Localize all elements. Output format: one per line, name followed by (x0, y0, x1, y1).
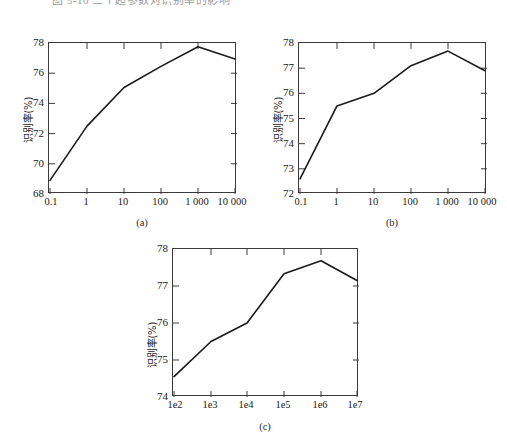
panel-a-xtick-2: 10 (118, 196, 129, 207)
cropped-caption-text: 图 5-10 三个超参数对识别率的影响 (52, 0, 230, 7)
panel-b-xtick-0: 0.1 (294, 196, 307, 207)
panel-a-xtick-0: 0.1 (44, 196, 57, 207)
panel-a-ytick-68: 68 (28, 188, 44, 199)
panel-a-ytick-70: 70 (28, 157, 44, 168)
panel-a-ytick-76: 76 (28, 67, 44, 78)
panel-b-ytick-77: 77 (278, 62, 294, 73)
panel-b-ytick-73: 73 (278, 162, 294, 173)
panel-c-ytick-76: 76 (152, 317, 168, 328)
panel-b-xtick-4: 1 000 (435, 196, 459, 207)
figure-panel-c: 识别率(%) (122, 238, 382, 444)
panel-b-ytick-74: 74 (278, 137, 294, 148)
panel-b-ytick-78: 78 (278, 37, 294, 48)
panel-c-plot-area (172, 248, 358, 396)
panel-b-ytick-76: 76 (278, 87, 294, 98)
panel-b-xtick-2: 10 (368, 196, 379, 207)
panel-c-xtick-0: 1e2 (167, 399, 182, 410)
panel-b-ytick-72: 72 (278, 188, 294, 199)
panel-c-ytick-77: 77 (152, 280, 168, 291)
panel-c-caption: (c) (259, 421, 271, 432)
panel-c-ytick-75: 75 (152, 354, 168, 365)
panel-a-data-line (50, 47, 235, 181)
panel-c-xtick-5: 1e7 (347, 399, 362, 410)
panel-c-plot-svg (173, 249, 359, 397)
figure-panel-b: 识别率(%) (250, 15, 507, 215)
panel-c-data-line (174, 261, 357, 377)
panel-a-ytick-72: 72 (28, 127, 44, 138)
panel-b-xtick-3: 100 (402, 196, 418, 207)
panel-a-ytick-78: 78 (28, 37, 44, 48)
panel-b-xtick-5: 10 000 (468, 196, 497, 207)
panel-b-data-line (300, 51, 485, 179)
panel-b-xtick-1: 1 (333, 196, 338, 207)
cropped-caption-strip: 图 5-10 三个超参数对识别率的影响 (0, 0, 507, 8)
panel-b-plot-svg (299, 43, 487, 194)
panel-b-ytick-75: 75 (278, 112, 294, 123)
panel-b-caption: (b) (386, 217, 398, 228)
panel-c-xtick-3: 1e5 (275, 399, 290, 410)
panel-c-xtick-2: 1e4 (238, 399, 253, 410)
panel-a-xtick-3: 100 (152, 196, 168, 207)
panel-c-xtick-4: 1e6 (312, 399, 327, 410)
panel-b-plot-area (298, 42, 486, 193)
panel-a-ytick-74: 74 (28, 97, 44, 108)
panel-c-ytick-78: 78 (152, 243, 168, 254)
panel-a-xtick-5: 10 000 (218, 196, 247, 207)
panel-a-xtick-4: 1 000 (185, 196, 209, 207)
panel-a-xtick-1: 1 (83, 196, 88, 207)
figure-panel-a: 识别率(%) (0, 15, 250, 215)
panel-c-ytick-74: 74 (152, 391, 168, 402)
panel-c-xtick-1: 1e3 (202, 399, 217, 410)
panel-a-caption: (a) (136, 217, 148, 228)
panel-a-plot-svg (49, 43, 237, 194)
panel-a-plot-area (48, 42, 236, 193)
